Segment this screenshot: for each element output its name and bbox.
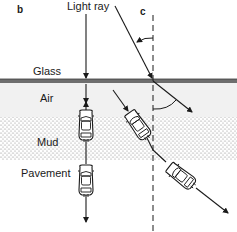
refraction-diagram: b Light ray c Glass Air Mud Pavement — [0, 0, 237, 232]
car-path-exit — [196, 188, 228, 213]
air-layer — [0, 83, 237, 117]
mud-layer — [0, 117, 237, 160]
incident-ray — [115, 6, 152, 78]
air-label: Air — [40, 93, 53, 104]
car-icon-tilted-pavement — [164, 160, 199, 192]
pavement-label: Pavement — [21, 168, 71, 179]
mud-label: Mud — [37, 137, 58, 148]
glass-label: Glass — [33, 66, 61, 77]
car-icon-pavement — [78, 165, 94, 197]
car-icon-mud — [78, 110, 94, 142]
panel-c-label: c — [140, 7, 146, 17]
diagram-canvas — [0, 0, 237, 232]
light-ray-label: Light ray — [67, 1, 109, 12]
angle-arc-incident — [137, 38, 153, 42]
glass-surface — [0, 79, 237, 83]
panel-b-label: b — [17, 5, 23, 15]
